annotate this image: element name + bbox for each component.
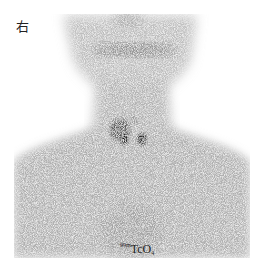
side-marker-label: 右	[16, 16, 29, 35]
tracer-subscript: 4	[151, 250, 154, 256]
tracer-symbol: TcO	[131, 242, 151, 256]
tracer-label: 99mTcO4	[120, 242, 154, 257]
tracer-mass-number: 99m	[120, 242, 131, 248]
scintigraphy-image	[0, 0, 264, 274]
